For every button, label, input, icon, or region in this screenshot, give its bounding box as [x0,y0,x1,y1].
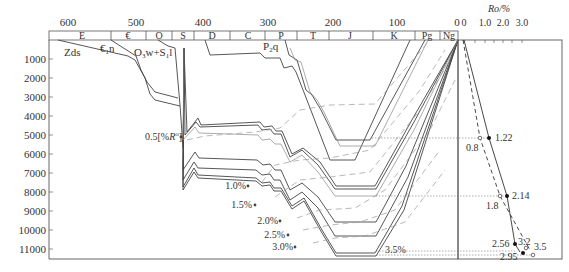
svg-text:8000: 8000 [24,186,47,198]
stratum-T: T [310,30,316,41]
svg-text:4000: 4000 [24,110,47,122]
ro-label-2.95: 2.95 [500,251,518,262]
svg-text:2000: 2000 [24,72,47,84]
tick-400: 400 [195,16,212,28]
stratum-O: O [155,30,162,41]
stratum-Ng: Ng [443,30,455,41]
tick-100: 100 [389,16,406,28]
svg-text:0: 0 [462,17,467,28]
stratum-J: J [348,30,352,41]
ro-label-2.56: 2.56 [492,238,510,249]
ro-label-3.5: 3.5 [534,241,547,252]
svg-text:9000: 9000 [24,205,47,217]
burial-history-chart: 600 500 400 300 200 100 0 E € O S D C P … [0,0,569,272]
stratum-S: S [180,30,186,41]
svg-text:6000: 6000 [24,148,47,160]
burial-curves-thin [183,40,458,196]
formation-cambrian-n: €1n [100,42,115,56]
ro-3.0-label: 3.0% [272,241,293,252]
svg-text:5000: 5000 [24,129,47,141]
ro-1.0-label: 1.0% [225,180,246,191]
depth-axis-ticks [49,59,53,249]
ro-0.5-label: 0.5[%Ro] [145,130,182,142]
ro-panel: Ro/% 0 1.0 2.0 3.0 [372,3,562,262]
ro-axis-title: Ro/% [487,3,510,14]
svg-text:1.0: 1.0 [479,17,492,28]
stratum-cambrian: € [126,30,131,41]
ro-label-2.14: 2.14 [512,190,530,201]
ro-2.0-label: 2.0% [257,215,278,226]
svg-text:10000: 10000 [19,224,47,236]
svg-text:11000: 11000 [19,243,47,255]
tick-600: 600 [60,16,77,28]
tick-0: 0 [454,16,460,28]
ro-label-1.22: 1.22 [495,132,513,143]
svg-text:7000: 7000 [24,167,47,179]
svg-text:3.0: 3.0 [516,17,529,28]
ro-2.5-label: 2.5% [264,229,285,240]
svg-text:1000: 1000 [24,53,47,65]
formation-zds: Zds [64,46,81,58]
stratum-C: C [245,30,252,41]
svg-text:2.0: 2.0 [497,17,510,28]
tick-200: 200 [325,16,342,28]
ro-label-1.8: 1.8 [486,200,499,211]
stratum-Pg: Pg [422,30,433,41]
stratum-K: K [390,30,398,41]
ro-label-0.8: 0.8 [466,142,479,153]
tick-500: 500 [128,16,145,28]
ro-1.5-label: 1.5% [231,199,252,210]
stratum-P: P [278,30,284,41]
svg-text:3000: 3000 [24,91,47,103]
formation-p2q: P2q [263,40,279,54]
formation-labels: Zds €1n O3w+S1l P2q [64,40,279,60]
stratum-E: E [79,30,85,41]
depth-axis-labels: 1000 2000 3000 4000 5000 6000 7000 8000 … [19,53,47,255]
ro-label-3.2: 3.2 [518,236,531,247]
plot-frame [49,40,458,259]
tick-300: 300 [260,16,277,28]
formation-o3w-s1l: O3w+S1l [134,46,172,60]
top-axis-labels: 600 500 400 300 200 100 0 [60,16,461,28]
ro-3.5-label: 3.5% [385,244,406,255]
stratum-D: D [208,30,215,41]
